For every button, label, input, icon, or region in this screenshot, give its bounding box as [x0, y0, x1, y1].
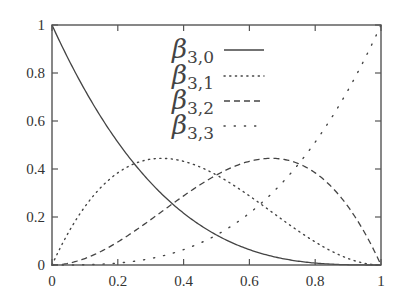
x-tick-label: 0.6	[240, 273, 259, 289]
x-tick-label: 1	[377, 273, 385, 289]
curve-beta-3-2	[52, 158, 381, 265]
x-axis-tick-labels: 00.20.40.60.81	[48, 273, 385, 289]
y-axis-tick-labels: 00.20.40.60.81	[26, 17, 45, 273]
y-tick-label: 0	[38, 257, 46, 273]
y-tick-label: 1	[38, 17, 46, 33]
curve-beta-3-3	[52, 25, 381, 265]
y-tick-label: 0.2	[26, 209, 45, 225]
x-tick-label: 0.2	[108, 273, 127, 289]
x-tick-label: 0.4	[174, 273, 193, 289]
y-tick-label: 0.4	[26, 161, 45, 177]
legend: β3,0β3,1β3,2β3,3	[171, 34, 264, 143]
x-tick-label: 0.8	[306, 273, 325, 289]
x-tick-label: 0	[48, 273, 56, 289]
y-tick-label: 0.6	[26, 113, 45, 129]
curve-beta-3-0	[52, 25, 381, 265]
plot-frame	[52, 25, 381, 265]
legend-entry-3: β3,3	[171, 110, 264, 143]
plot-curves	[52, 25, 381, 265]
axis-ticks	[52, 25, 381, 265]
y-tick-label: 0.8	[26, 65, 45, 81]
bernstein-chart: 00.20.40.60.81 00.20.40.60.81 β3,0β3,1β3…	[0, 0, 396, 306]
